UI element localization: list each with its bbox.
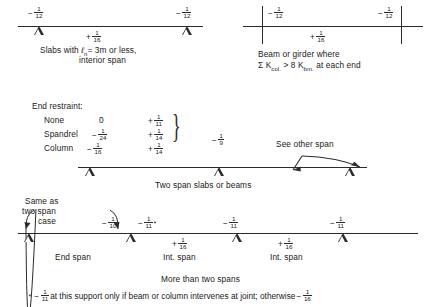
aci-moment-coefficient-figure: − 1 12 − 1 12 + 1 16 Slabs with ℓn= 3m o… <box>0 0 429 307</box>
footnote-den-2: 16 <box>303 295 312 303</box>
multi-span-moment-2-den: 16 <box>178 243 187 251</box>
panel1-right-moment: − 1 12 <box>176 6 191 20</box>
panel2-right-moment: − 1 12 <box>378 6 393 20</box>
multi-span-moment-3-den: 11 <box>229 222 237 230</box>
multi-span-moment-2: + 1 16 <box>172 237 187 251</box>
multi-span-label-2: Int. span <box>270 252 303 262</box>
footnote-sign-1: − <box>34 291 39 301</box>
two-span-row2-mid-sign: + <box>148 144 153 154</box>
two-span-row2-label: Column <box>44 143 73 153</box>
panel2-right-moment-sign: − <box>378 8 383 18</box>
multi-span-label-0: End span <box>55 252 91 262</box>
panel2-beam <box>243 26 423 27</box>
two-span-row1-mid-moment: + 1 14 <box>148 128 163 142</box>
panel2-right-moment-den: 12 <box>384 12 393 20</box>
multi-span-moment-0-den: 10 <box>108 222 117 230</box>
panel1-support-left <box>34 26 44 35</box>
multi-span-caption: More than two spans <box>161 274 240 284</box>
panel1-left-moment-sign: − <box>28 8 33 18</box>
two-span-row1-end-moment: − 1 24 <box>92 128 107 142</box>
multi-span-support-4 <box>338 233 348 242</box>
footnote: * − 1 11 at this support only if beam or… <box>28 289 312 303</box>
panel2-left-moment-den: 12 <box>274 12 283 20</box>
two-span-row0-mid-moment: + 1 11 <box>148 114 163 128</box>
two-span-row2-mid-den: 14 <box>154 148 163 156</box>
multi-span-moment-0: − 1 10 <box>102 216 117 230</box>
two-span-interior-sign: − <box>212 135 217 145</box>
multi-span-moment-1-den: 11 <box>144 222 152 230</box>
panel1-mid-moment: + 1 16 <box>86 30 101 44</box>
panel2-caption-line1: Beam or girder where <box>258 49 340 59</box>
see-other-span-arrow <box>288 150 378 172</box>
footnote-marker: * <box>29 293 32 300</box>
multi-span-label-1: Int. span <box>163 252 196 262</box>
multi-span-moment-4: + 1 16 <box>278 237 293 251</box>
multi-span-moment-3-sign: − <box>223 218 228 228</box>
panel1-mid-moment-den: 16 <box>92 36 101 44</box>
panel2-inequality: > 8 K <box>281 60 304 70</box>
panel2-column-right <box>401 6 402 44</box>
two-span-interior-den: 9 <box>218 139 223 147</box>
multi-span-moment-1-star: * <box>153 220 156 227</box>
panel1-left-moment: − 1 12 <box>28 6 43 20</box>
multi-span-moment-4-sign: + <box>278 239 283 249</box>
footnote-text: at this support only if beam or column i… <box>50 291 295 301</box>
two-span-row1-mid-sign: + <box>148 130 153 140</box>
multi-span-moment-5-den: 11 <box>336 222 344 230</box>
two-span-annotation: See other span <box>276 139 334 149</box>
two-span-support-right <box>345 167 355 176</box>
panel2-sigma-k: Σ K <box>258 60 271 70</box>
panel2-column-left <box>262 6 263 44</box>
panel1-support-right <box>182 26 192 35</box>
multi-span-support-2 <box>126 233 136 242</box>
two-span-support-mid <box>214 167 224 176</box>
two-span-row0-end-moment: 0 <box>99 115 104 125</box>
multi-span-support-3 <box>232 233 242 242</box>
two-span-brace: } <box>172 110 181 143</box>
multi-span-moment-4-den: 16 <box>284 243 293 251</box>
two-span-row2-end-den: 16 <box>93 148 102 156</box>
multi-span-moment-5: − 1 11 <box>330 216 345 230</box>
panel2-at-each-end: at each end <box>314 60 361 70</box>
panel2-mid-moment-den: 16 <box>316 36 325 44</box>
two-span-row2-end-moment: − 1 16 <box>87 142 102 156</box>
two-span-interior-moment: − 1 9 <box>212 133 224 147</box>
panel2-mid-moment: + 1 16 <box>310 30 325 44</box>
panel2-left-moment-sign: − <box>268 8 273 18</box>
multi-span-moment-1: − 1 11 * <box>138 216 156 230</box>
panel1-beam <box>18 26 203 27</box>
two-span-row0-label: None <box>44 115 64 125</box>
panel2-sub-col: col. <box>271 66 281 72</box>
panel2-sub-bm: bm. <box>304 66 314 72</box>
two-span-heading: End restraint: <box>32 101 83 111</box>
panel1-left-moment-den: 12 <box>34 12 43 20</box>
two-span-row2-mid-moment: + 1 14 <box>148 142 163 156</box>
two-span-row0-mid-sign: + <box>148 116 153 126</box>
panel1-right-moment-den: 12 <box>182 12 191 20</box>
multi-span-moment-2-sign: + <box>172 239 177 249</box>
multi-span-moment-3: − 1 11 <box>223 216 238 230</box>
panel1-caption-line2: interior span <box>79 55 126 65</box>
multi-span-moment-1-sign: − <box>138 218 143 228</box>
two-span-caption: Two span slabs or beams <box>155 180 251 190</box>
footnote-sign-2: − <box>296 291 301 301</box>
multi-span-support-1 <box>24 233 34 242</box>
footnote-den-1: 11 <box>41 295 49 303</box>
panel1-mid-moment-sign: + <box>86 32 91 42</box>
two-span-support-left <box>85 167 95 176</box>
panel2-mid-moment-sign: + <box>310 32 315 42</box>
multi-span-moment-0-sign: − <box>102 218 107 228</box>
two-span-row1-end-sign: − <box>92 130 97 140</box>
two-span-row2-end-sign: − <box>87 144 92 154</box>
two-span-row1-label: Spandrel <box>44 129 78 139</box>
panel2-left-moment: − 1 12 <box>268 6 283 20</box>
panel2-caption-line2: Σ Kcol. > 8 Kbm. at each end <box>258 60 361 73</box>
multi-span-beam <box>18 233 418 234</box>
multi-span-moment-5-sign: − <box>330 218 335 228</box>
panel1-right-moment-sign: − <box>176 8 181 18</box>
